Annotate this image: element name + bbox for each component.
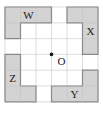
shape-y: Y xyxy=(52,70,99,102)
shape-z: Z xyxy=(5,54,36,101)
center-point-dot xyxy=(50,53,54,57)
shape-z-label: Z xyxy=(9,72,16,84)
grid-diagram: W X Y Z O xyxy=(0,0,103,113)
shape-x-label: X xyxy=(87,25,95,37)
center-point-label: O xyxy=(58,55,66,67)
shape-x: X xyxy=(67,7,98,54)
shape-w: W xyxy=(5,7,52,39)
shape-y-label: Y xyxy=(71,88,79,100)
shape-w-label: W xyxy=(23,9,34,21)
